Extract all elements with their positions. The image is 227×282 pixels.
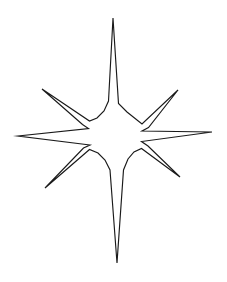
eight-pointed-star-graphic: Outline drawing of an eight-pointed star… — [0, 0, 227, 282]
image-canvas: Outline drawing of an eight-pointed star… — [0, 0, 227, 282]
